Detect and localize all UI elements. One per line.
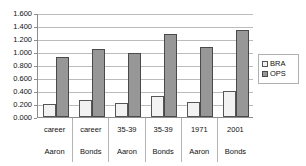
bars-layer	[38, 14, 253, 117]
category-cell: 35-39Aaron	[109, 118, 145, 162]
category-cell: 1971Aaron	[182, 118, 218, 162]
category-cell: 2001Bonds	[218, 118, 253, 162]
bar-bra	[223, 91, 236, 117]
category-label: 35-39	[109, 118, 144, 140]
y-tick-label: 1.400	[13, 23, 32, 31]
category-label: 2001	[218, 118, 253, 140]
legend-label: OPS	[270, 70, 286, 78]
y-tick-label: 1.000	[13, 49, 32, 57]
category-axis: careerAaroncareerBonds35-39Aaron35-39Bon…	[37, 118, 253, 162]
category-label: 1971	[182, 118, 217, 140]
chart-legend: BRAOPS	[258, 54, 299, 84]
bar-group	[182, 14, 218, 117]
legend-swatch-icon	[262, 71, 268, 77]
category-sublabel: Aaron	[37, 140, 72, 162]
legend-item-bra[interactable]: BRA	[262, 60, 295, 68]
bar-group	[218, 14, 254, 117]
y-tick-label: 1.200	[13, 36, 32, 44]
legend-swatch-icon	[262, 61, 268, 67]
legend-label: BRA	[270, 60, 285, 68]
category-sublabel: Bonds	[146, 140, 181, 162]
category-sublabel: Bonds	[218, 140, 253, 162]
bar-bra	[151, 96, 164, 117]
y-tick-label: 0.000	[13, 114, 32, 122]
bar-group	[74, 14, 110, 117]
y-tick-label: 0.600	[13, 75, 32, 83]
bar-ops	[200, 47, 213, 117]
y-tick-label: 0.800	[13, 62, 32, 70]
bar-bra	[43, 104, 56, 117]
category-cell: 35-39Bonds	[146, 118, 182, 162]
category-sublabel: Aaron	[109, 140, 144, 162]
bar-ops	[92, 49, 105, 117]
category-label: 35-39	[146, 118, 181, 140]
bar-ops	[56, 57, 69, 117]
category-cell: careerBonds	[73, 118, 109, 162]
bar-ops	[236, 30, 249, 117]
legend-item-ops[interactable]: OPS	[262, 70, 295, 78]
y-tick-label: 0.200	[13, 101, 32, 109]
category-sublabel: Bonds	[73, 140, 108, 162]
bar-group	[146, 14, 182, 117]
bar-bra	[115, 103, 128, 117]
y-axis: 0.0000.2000.4000.6000.8001.0001.2001.400…	[0, 0, 37, 119]
y-tick-label: 1.600	[13, 10, 32, 18]
bar-bra	[187, 102, 200, 117]
bar-group	[110, 14, 146, 117]
bar-ops	[164, 34, 177, 117]
category-sublabel: Aaron	[182, 140, 217, 162]
category-label: career	[37, 118, 72, 140]
category-cell: careerAaron	[37, 118, 73, 162]
y-tick-label: 0.400	[13, 88, 32, 96]
bar-group	[38, 14, 74, 117]
bar-chart: 0.0000.2000.4000.6000.8001.0001.2001.400…	[0, 0, 306, 166]
bar-bra	[79, 100, 92, 117]
bar-ops	[128, 53, 141, 117]
category-label: career	[73, 118, 108, 140]
plot-area	[37, 14, 253, 118]
